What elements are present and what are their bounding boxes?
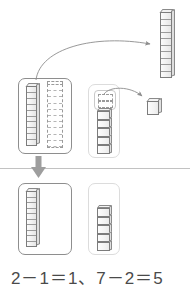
ones-solid-stack-after: [97, 208, 111, 251]
divider: [0, 168, 190, 169]
unit-cube-ghost: [98, 94, 113, 101]
curved-arrow-rod: [36, 41, 150, 80]
tens-group-after: [18, 183, 72, 255]
rod-front-face-ghost: [47, 84, 63, 148]
cube-front-face: [147, 101, 159, 115]
cube-front-face: [97, 145, 110, 154]
ones-group-before: [88, 84, 120, 158]
unit-cube: [97, 145, 110, 154]
equation-text: 2－1＝1、7－2＝5: [11, 264, 164, 289]
tens-group-before: [18, 78, 72, 154]
rod-front-face: [160, 12, 172, 78]
ten-rod-ghost: [47, 84, 63, 148]
rod-front-face: [26, 191, 37, 247]
ones-ghost-clump: [94, 90, 116, 110]
ones-group-after: [88, 183, 120, 255]
unit-cube: [97, 242, 110, 251]
down-arrow: [31, 156, 46, 178]
removed-ten-rod: [160, 12, 172, 78]
unit-cube-ghost: [98, 101, 113, 108]
cube-front-face: [98, 101, 113, 108]
removed-unit-cube: [147, 101, 159, 115]
ones-solid-stack: [97, 111, 111, 154]
ten-rod-solid: [26, 86, 37, 146]
cube-front-face: [98, 94, 113, 101]
cube-front-face: [97, 242, 110, 251]
figure-canvas: 2－1＝1、7－2＝5: [0, 0, 190, 292]
ten-rod-solid: [26, 191, 37, 247]
rod-front-face: [26, 86, 37, 146]
